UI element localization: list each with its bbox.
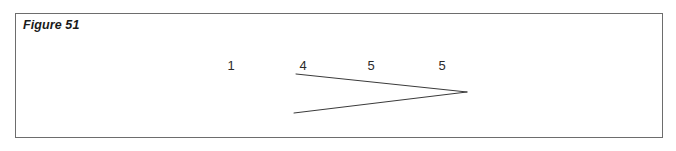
- figure-page: Figure 51 1 4 5 5: [0, 0, 676, 151]
- angle-diagram: [16, 14, 662, 137]
- vertex-label-4: 5: [438, 59, 445, 72]
- angle-rays: [294, 74, 467, 113]
- vertex-label-1: 1: [227, 59, 234, 72]
- vertex-label-2: 4: [299, 59, 306, 72]
- lower-ray-line: [294, 92, 467, 113]
- figure-frame-border: Figure 51 1 4 5 5: [15, 13, 663, 138]
- vertex-label-3: 5: [367, 59, 374, 72]
- upper-ray-line: [296, 74, 467, 92]
